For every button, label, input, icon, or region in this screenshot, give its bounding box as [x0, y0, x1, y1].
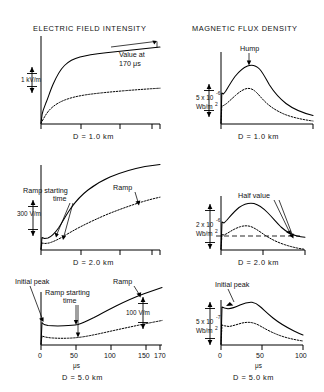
scale-label: 100 V/m: [126, 309, 150, 316]
scale-label-unit-exponent: 2: [215, 229, 218, 234]
panel-caption: D = 2.0 km: [73, 258, 114, 267]
annotation-arrow-initial: [226, 302, 233, 306]
xtick-label: 0: [38, 352, 42, 359]
x-axis-ticks: [41, 345, 160, 350]
scale-label-exponent: -6: [216, 91, 221, 96]
annotation-arrow-ramp: [136, 200, 141, 205]
xtick-label: 50: [70, 352, 78, 359]
annotation-hump: Hump: [240, 44, 259, 53]
panel-caption: D = 5.0 km: [62, 373, 103, 382]
xtick-label: 0: [218, 352, 222, 359]
curve-dashed: [41, 88, 160, 123]
panel-caption: D = 1.0 km: [238, 132, 279, 141]
scale-label-mantissa: 5 x 10: [196, 94, 214, 101]
annotation-value-at-line2: 170 μs: [119, 59, 141, 68]
xtick-label: 100: [295, 352, 307, 359]
annotation-initial-peak: Initial peak: [215, 280, 250, 289]
annotation-arrow: [152, 40, 157, 44]
scale-label: 1 kV/m: [21, 76, 41, 83]
x-axis-unit: μs: [73, 362, 80, 370]
scale-label-unit: Wb/m: [196, 103, 213, 110]
curve-dashed: [221, 322, 303, 344]
scale-arrow-up: [141, 297, 146, 302]
curve-solid: [221, 65, 313, 123]
scale-label-mantissa: 2 x 10: [196, 221, 214, 228]
curve-solid: [41, 165, 160, 250]
panel-electric-5km: 100 V/m Initial peak Ramp starting time …: [15, 277, 166, 382]
annotation-leader-ramp: [135, 192, 138, 202]
scale-arrow-up: [207, 84, 212, 89]
scale-label-exponent: -6: [216, 218, 221, 223]
panel-caption: D = 5.0 km: [233, 373, 274, 382]
annotation-ramp-start-line2: time: [53, 194, 67, 203]
scale-arrow-up: [30, 67, 35, 72]
scale-label: 300 V/m: [17, 210, 41, 217]
scale-label-unit-exponent: 2: [215, 102, 218, 107]
panel-caption: D = 2.0 km: [238, 258, 279, 267]
scale-arrow-down: [31, 231, 36, 236]
scale-arrow-down: [208, 340, 213, 345]
annotation-arrow-b: [76, 333, 80, 338]
panel-magnetic-5km: 5 x 10 -7 Wb/m 2 Initial peak 0 50 100 μ…: [196, 280, 307, 382]
annotation-ramp-start-line2: time: [63, 296, 77, 305]
column-title-magnetic: MAGNETIC FLUX DENSITY: [192, 24, 298, 33]
scale-arrow-up: [31, 200, 36, 205]
curve-solid: [221, 203, 305, 249]
figure-canvas: ELECTRIC FIELD INTENSITY MAGNETIC FLUX D…: [0, 0, 324, 392]
annotation-half-value: Half value: [238, 191, 270, 200]
annotation-ramp: Ramp: [113, 277, 132, 286]
scale-label-mantissa: 5 x 10: [196, 318, 214, 325]
xtick-label: 170: [154, 352, 166, 359]
curve-dashed: [221, 88, 313, 123]
xtick-label: 150: [138, 352, 150, 359]
scale-label-unit: Wb/m: [196, 327, 213, 334]
x-axis-ticks: [221, 250, 305, 255]
scale-arrow-up: [208, 204, 213, 209]
scale-arrow-down: [207, 112, 212, 117]
curve-solid: [221, 302, 303, 344]
panel-magnetic-2km: 2 x 10 -6 Wb/m 2 Half value D = 2.0 km: [196, 191, 305, 267]
panel-magnetic-1km: 5 x 10 -6 Wb/m 2 Hump D = 1.0 km: [196, 44, 313, 141]
annotation-leader-a: [274, 200, 289, 231]
xtick-label: 50: [256, 352, 264, 359]
x-axis-ticks: [41, 124, 160, 129]
annotation-leader-initial: [228, 289, 234, 302]
panel-electric-2km: 300 V/m Ramp starting time Ramp D = 2.0 …: [17, 165, 160, 268]
scale-arrow-down: [208, 244, 213, 249]
x-axis-unit: μs: [255, 362, 262, 370]
scale-arrow-down: [141, 324, 146, 329]
annotation-leader-ramp: [134, 286, 139, 294]
x-axis-ticks: [221, 345, 303, 350]
x-axis-ticks: [41, 250, 160, 255]
panel-electric-1km: 1 kV/m Value at 170 μs D = 1.0 km: [21, 36, 160, 141]
annotation-leader-initial: [30, 286, 42, 318]
scale-arrow-up: [208, 302, 213, 307]
annotation-arrow-a: [55, 233, 59, 238]
annotation-leader-b: [279, 200, 292, 234]
x-axis-ticks: [221, 124, 313, 129]
annotation-leader-b: [64, 203, 73, 236]
scale-label-exponent: -7: [216, 315, 221, 320]
curve-dashed: [41, 197, 160, 249]
xtick-label: 100: [104, 352, 116, 359]
annotation-arrow: [247, 61, 251, 66]
annotation-initial-peak: Initial peak: [15, 277, 50, 286]
annotation-ramp: Ramp: [113, 183, 132, 192]
scale-arrow-down: [30, 88, 35, 93]
scale-label-unit-exponent: 2: [215, 326, 218, 331]
annotation-leader-a: [57, 203, 70, 234]
scale-label-unit: Wb/m: [196, 230, 213, 237]
annotation-leader: [111, 42, 155, 48]
panel-caption: D = 1.0 km: [73, 132, 114, 141]
column-title-electric: ELECTRIC FIELD INTENSITY: [33, 24, 146, 33]
